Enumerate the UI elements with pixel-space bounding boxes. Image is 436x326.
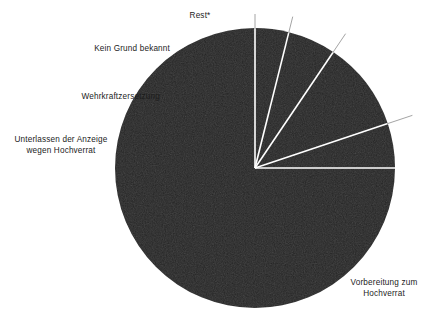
pie-chart-svg — [0, 0, 436, 326]
pie-leader-line — [387, 115, 413, 124]
pie-chart-figure: Rest* Kein Grund bekannt Wehrkraftzerset… — [0, 0, 436, 326]
pie-leader-line — [333, 34, 346, 53]
pie-leader-line — [289, 17, 293, 34]
